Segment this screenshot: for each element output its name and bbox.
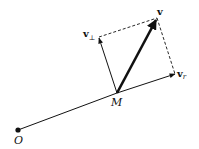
v-label: v bbox=[156, 6, 164, 17]
origin-label: O bbox=[14, 134, 23, 147]
v-perp-vector bbox=[99, 38, 117, 93]
v-perp-label: v⊥ bbox=[82, 28, 95, 42]
radial-line bbox=[18, 93, 117, 130]
vector-diagram: O M v vr v⊥ bbox=[0, 0, 199, 149]
dashed-edge-right bbox=[157, 18, 175, 74]
origin-point bbox=[15, 127, 20, 132]
v-r-label-sub: r bbox=[183, 73, 187, 81]
m-label: M bbox=[110, 96, 123, 109]
v-perp-label-sub: ⊥ bbox=[89, 34, 96, 42]
v-r-label: vr bbox=[176, 68, 187, 81]
